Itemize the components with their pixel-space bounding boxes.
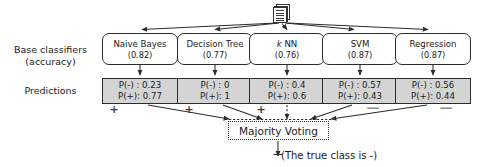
prediction-negative: P(-) : 0.56 (412, 80, 454, 92)
prediction-box-knn: P(-) : 0.4 P(+): 0.6 (249, 78, 325, 104)
classifier-name: SVM (351, 39, 370, 49)
dataset-icon-line (276, 13, 284, 14)
classifier-box-knn: k NN (0.76) (249, 33, 325, 65)
prediction-negative: P(-) : 0 (201, 80, 230, 92)
true-class-annotation: (The true class is -) (281, 150, 377, 162)
ensemble-voting-diagram: Base classifiers (accuracy) Predictions … (0, 0, 480, 167)
dataset-icon-sheet-front (273, 7, 287, 23)
prediction-negative: P(-) : 0.4 (268, 80, 305, 92)
classifier-name: k NN (277, 39, 298, 49)
classifier-name: Regression (409, 39, 456, 49)
row-label-base-classifiers-line1: Base classifiers (2, 44, 99, 56)
majority-voting-label: Majority Voting (239, 125, 318, 137)
dataset-icon-line (276, 18, 284, 19)
row-label-base-classifiers-line2: (accuracy) (2, 56, 99, 68)
dataset-icon-line (276, 20, 284, 21)
classifier-box-svm: SVM (0.87) (322, 33, 398, 65)
dataset-icon-line (276, 15, 284, 16)
prediction-box-regression: P(-) : 0.56 P(+): 0.44 (395, 78, 471, 104)
row-label-base-classifiers: Base classifiers (accuracy) (2, 44, 99, 67)
classifier-accuracy: (0.76) (275, 50, 300, 60)
dataset-document-icon (273, 4, 291, 23)
vote-sign-naive-bayes: + (107, 104, 121, 115)
prediction-positive: P(+): 0.77 (118, 91, 162, 103)
row-label-predictions: Predictions (2, 85, 99, 97)
classifier-name: Decision Tree (186, 39, 243, 49)
classifier-accuracy: (0.87) (421, 50, 446, 60)
classifier-name: Naive Bayes (113, 39, 166, 49)
prediction-negative: P(-) : 0.23 (119, 80, 161, 92)
vote-sign-regression: — (439, 102, 453, 113)
dataset-icon-line (276, 10, 284, 11)
classifier-box-naive-bayes: Naive Bayes (0.82) (102, 33, 178, 65)
classifier-box-regression: Regression (0.87) (395, 33, 471, 65)
prediction-positive: P(+): 1 (200, 91, 230, 103)
classifier-accuracy: (0.77) (203, 50, 228, 60)
vote-sign-decision-tree: + (182, 104, 196, 115)
prediction-negative: P(-) : 0.57 (339, 80, 381, 92)
classifier-box-decision-tree: Decision Tree (0.77) (177, 33, 253, 65)
majority-voting-box: Majority Voting (228, 121, 329, 140)
vote-sign-knn: + (254, 104, 268, 115)
prediction-box-svm: P(-) : 0.57 P(+): 0.43 (322, 78, 398, 104)
classifier-accuracy: (0.87) (348, 50, 373, 60)
vote-sign-svm: — (366, 102, 380, 113)
prediction-box-decision-tree: P(-) : 0 P(+): 1 (177, 78, 253, 104)
classifier-name-italic-prefix: k (277, 39, 282, 49)
prediction-box-naive-bayes: P(-) : 0.23 P(+): 0.77 (102, 78, 178, 104)
prediction-positive: P(+): 0.6 (268, 91, 306, 103)
classifier-accuracy: (0.82) (128, 50, 153, 60)
